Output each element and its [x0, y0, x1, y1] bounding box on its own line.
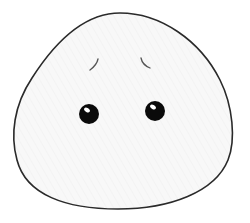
eye-right-icon: [145, 101, 165, 121]
eye-left-icon: [79, 104, 99, 124]
illustration-canvas: [0, 0, 250, 223]
blob-face-illustration: [0, 0, 250, 223]
blob-body: [14, 13, 233, 209]
